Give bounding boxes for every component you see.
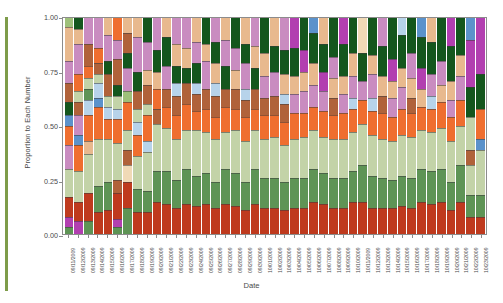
x-tick-mark: [117, 235, 118, 238]
bar-segment: [437, 102, 446, 128]
bar-segment: [104, 61, 113, 74]
bar-segment: [309, 107, 318, 131]
stacked-bar[interactable]: [280, 18, 289, 234]
stacked-bar[interactable]: [398, 18, 407, 234]
bar-segment: [339, 18, 348, 44]
stacked-bar[interactable]: [74, 18, 83, 234]
bar-segment: [437, 202, 446, 234]
stacked-bar[interactable]: [211, 18, 220, 234]
stacked-bar[interactable]: [84, 18, 93, 234]
stacked-bar[interactable]: [319, 18, 328, 234]
stacked-bar[interactable]: [368, 18, 377, 234]
stacked-bar[interactable]: [476, 18, 485, 234]
bar-segment: [143, 18, 152, 42]
x-tick-mark: [442, 235, 443, 238]
stacked-bar[interactable]: [133, 18, 142, 234]
bar-segment: [398, 135, 407, 176]
bar-segment: [211, 18, 220, 42]
stacked-bar[interactable]: [94, 18, 103, 234]
stacked-bar[interactable]: [192, 18, 201, 234]
bar-segment: [378, 96, 387, 113]
bar-segment: [202, 61, 211, 89]
bar-segment: [182, 48, 191, 67]
bar-segment: [329, 78, 338, 97]
stacked-bar[interactable]: [143, 18, 152, 234]
bar-segment: [123, 102, 132, 130]
x-tick-label: 10/01/2009: [267, 248, 273, 274]
x-tick-mark: [275, 235, 276, 238]
stacked-bar[interactable]: [329, 18, 338, 234]
bar-segment: [143, 152, 152, 191]
bar-segment: [260, 98, 269, 115]
bar-segment: [260, 115, 269, 139]
stacked-bar[interactable]: [417, 18, 426, 234]
stacked-bar[interactable]: [162, 18, 171, 234]
stacked-bar[interactable]: [123, 18, 132, 234]
bar-segment: [456, 55, 465, 77]
bar-segment: [329, 115, 338, 139]
bar-segment: [398, 35, 407, 67]
stacked-bar[interactable]: [231, 18, 240, 234]
bar-segment: [447, 210, 456, 234]
bar-segment: [65, 169, 74, 197]
bar-segment: [211, 83, 220, 96]
stacked-bar[interactable]: [437, 18, 446, 234]
x-tick-label: 09/23/2009: [188, 248, 194, 274]
x-tick-label: 10/06/2009: [316, 248, 322, 274]
stacked-bar[interactable]: [65, 18, 74, 234]
bar-segment: [202, 44, 211, 61]
stacked-bar[interactable]: [221, 18, 230, 234]
bar-segment: [65, 126, 74, 145]
bar-segment: [182, 169, 191, 204]
bar-segment: [221, 169, 230, 204]
bar-segment: [388, 180, 397, 208]
stacked-bar[interactable]: [339, 18, 348, 234]
stacked-bar[interactable]: [427, 18, 436, 234]
bar-segment: [153, 72, 162, 89]
stacked-bar[interactable]: [466, 18, 475, 234]
stacked-bar[interactable]: [202, 18, 211, 234]
stacked-bar[interactable]: [104, 18, 113, 234]
stacked-bar[interactable]: [349, 18, 358, 234]
bar-segment: [447, 46, 456, 81]
stacked-bar[interactable]: [113, 18, 122, 234]
bar-segment: [143, 70, 152, 85]
bar-segment: [211, 96, 220, 118]
stacked-bar[interactable]: [260, 18, 269, 234]
stacked-bar[interactable]: [182, 18, 191, 234]
stacked-bar[interactable]: [309, 18, 318, 234]
stacked-bar[interactable]: [153, 18, 162, 234]
bar-segment: [466, 87, 475, 117]
stacked-bar[interactable]: [270, 18, 279, 234]
bar-segment: [466, 165, 475, 195]
stacked-bar[interactable]: [378, 18, 387, 234]
stacked-bar[interactable]: [447, 18, 456, 234]
bar-segment: [211, 42, 220, 64]
x-tick-label: 09/16/2009: [119, 248, 125, 274]
stacked-bar[interactable]: [456, 18, 465, 234]
stacked-bar[interactable]: [358, 18, 367, 234]
x-tick-mark: [176, 235, 177, 238]
x-tick-label: 10/08/2009: [336, 248, 342, 274]
bar-segment: [456, 165, 465, 202]
bar-segment: [123, 91, 132, 102]
bar-segment: [270, 46, 279, 72]
y-tick-label: 0.25: [18, 177, 58, 186]
bar-segment: [133, 37, 142, 72]
stacked-bar[interactable]: [172, 18, 181, 234]
bar-segment: [133, 212, 142, 234]
stacked-bar[interactable]: [251, 18, 260, 234]
x-tick-label: 09/20/2009: [158, 248, 164, 274]
stacked-bar[interactable]: [388, 18, 397, 234]
bar-segment: [280, 74, 289, 93]
stacked-bar[interactable]: [300, 18, 309, 234]
bar-segment: [153, 89, 162, 108]
stacked-bar[interactable]: [290, 18, 299, 234]
x-tick-mark: [393, 235, 394, 238]
bar-segment: [104, 210, 113, 234]
bar-segment: [104, 35, 113, 61]
bar-segment: [456, 76, 465, 100]
stacked-bar[interactable]: [407, 18, 416, 234]
stacked-bar[interactable]: [241, 18, 250, 234]
bar-segment: [466, 217, 475, 234]
